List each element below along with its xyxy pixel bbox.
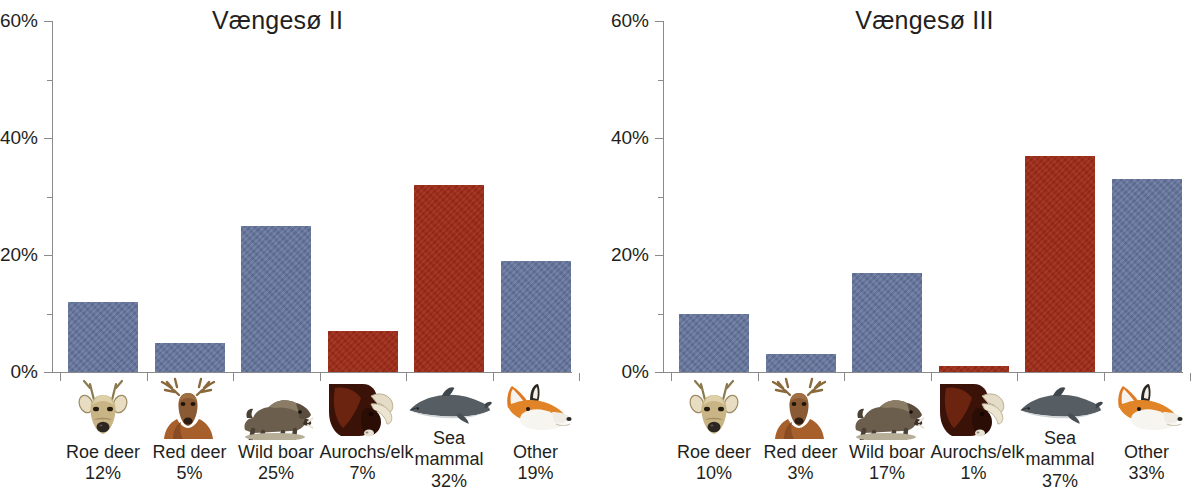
category-value: 3% — [758, 462, 844, 484]
bar-aurochs-elk — [939, 366, 1009, 372]
category-wild-boar: Wild boar17% — [844, 374, 930, 484]
bar-wild-boar — [241, 226, 311, 372]
category-red-deer: Red deer5% — [147, 374, 233, 484]
fox-icon — [1104, 374, 1190, 440]
category-label: Other — [1104, 442, 1190, 462]
category-sea-mammal: Sea mammal37% — [1017, 374, 1103, 492]
bar-roe-deer — [679, 314, 749, 373]
y-axis-tick-label: 0% — [622, 361, 649, 383]
category-value: 33% — [1104, 462, 1190, 484]
sea-mammal-icon — [406, 374, 492, 426]
category-roe-deer: Roe deer10% — [671, 374, 757, 484]
chart-panel-vaengeso-iii: Vængesø III 0%20%40%60% Roe deer10% — [601, 0, 1202, 500]
category-value: 5% — [147, 462, 233, 484]
category-label: Roe deer — [671, 442, 757, 462]
category-value: 7% — [320, 462, 406, 484]
bar-wild-boar — [852, 273, 922, 372]
y-axis-tick — [655, 255, 663, 256]
x-axis-tick — [579, 373, 580, 381]
category-aurochs-elk: Aurochs/elk7% — [320, 374, 406, 484]
y-axis-minor-tick — [47, 80, 52, 81]
bar-sea-mammal — [1025, 156, 1095, 372]
category-aurochs-elk: Aurochs/elk1% — [931, 374, 1017, 484]
category-label: Sea mammal — [1017, 428, 1103, 470]
category-wild-boar: Wild boar25% — [233, 374, 319, 484]
category-label: Other — [493, 442, 579, 462]
x-axis-line-left — [52, 372, 572, 373]
category-label: Sea mammal — [406, 428, 492, 470]
category-value: 32% — [406, 470, 492, 492]
y-axis-tick-label: 60% — [0, 10, 38, 32]
red-deer-icon — [758, 374, 844, 440]
bars-left — [68, 21, 570, 372]
roe-deer-icon — [60, 374, 146, 440]
bar-roe-deer — [68, 302, 138, 372]
figure: Vængesø II 0%20%40%60% Roe deer12% — [0, 0, 1202, 500]
y-axis-tick — [44, 138, 52, 139]
bar-red-deer — [155, 343, 225, 372]
y-axis-tick-label: 20% — [611, 244, 649, 266]
wild-boar-icon — [844, 374, 930, 440]
plot-area-left: 0%20%40%60% — [68, 21, 570, 372]
wild-boar-icon — [233, 374, 319, 440]
category-label: Aurochs/elk — [931, 442, 1017, 462]
bar-sea-mammal — [414, 185, 484, 372]
y-axis-minor-tick — [47, 314, 52, 315]
y-axis-tick — [655, 21, 663, 22]
y-axis-tick — [44, 255, 52, 256]
category-label: Red deer — [147, 442, 233, 462]
category-value: 37% — [1017, 470, 1103, 492]
y-axis-tick-label: 40% — [611, 127, 649, 149]
y-axis-tick-label: 40% — [0, 127, 38, 149]
category-value: 19% — [493, 462, 579, 484]
roe-deer-icon — [671, 374, 757, 440]
category-label: Wild boar — [844, 442, 930, 462]
y-axis-minor-tick — [658, 197, 663, 198]
y-axis-tick-label: 20% — [0, 244, 38, 266]
category-red-deer: Red deer3% — [758, 374, 844, 484]
category-label: Red deer — [758, 442, 844, 462]
y-axis-tick-label: 0% — [11, 361, 38, 383]
bars-right — [679, 21, 1181, 372]
bar-other — [1112, 179, 1182, 372]
bar-red-deer — [766, 354, 836, 372]
y-axis-minor-tick — [658, 314, 663, 315]
category-value: 12% — [60, 462, 146, 484]
category-value: 10% — [671, 462, 757, 484]
red-deer-icon — [147, 374, 233, 440]
category-label: Wild boar — [233, 442, 319, 462]
x-axis-tick — [1190, 373, 1191, 381]
category-other: Other33% — [1104, 374, 1190, 484]
y-axis-line-left — [52, 21, 53, 373]
plot-area-right: 0%20%40%60% — [679, 21, 1181, 372]
bar-aurochs-elk — [328, 331, 398, 372]
y-axis-tick — [44, 21, 52, 22]
category-labels-left: Roe deer12% Red deer5% Wild boar25% — [68, 374, 570, 500]
category-sea-mammal: Sea mammal32% — [406, 374, 492, 492]
category-value: 25% — [233, 462, 319, 484]
aurochs-icon — [320, 374, 406, 440]
aurochs-icon — [931, 374, 1017, 440]
category-label: Roe deer — [60, 442, 146, 462]
y-axis-line-right — [663, 21, 664, 373]
y-axis-tick — [655, 138, 663, 139]
sea-mammal-icon — [1017, 374, 1103, 426]
y-axis-minor-tick — [658, 80, 663, 81]
bar-other — [501, 261, 571, 372]
category-value: 1% — [931, 462, 1017, 484]
y-axis-tick — [655, 372, 663, 373]
fox-icon — [493, 374, 579, 440]
category-roe-deer: Roe deer12% — [60, 374, 146, 484]
y-axis-minor-tick — [47, 197, 52, 198]
y-axis-tick — [44, 372, 52, 373]
category-labels-right: Roe deer10% Red deer3% Wild boar17% — [679, 374, 1181, 500]
y-axis-tick-label: 60% — [611, 10, 649, 32]
category-value: 17% — [844, 462, 930, 484]
chart-panel-vaengeso-ii: Vængesø II 0%20%40%60% Roe deer12% — [0, 0, 601, 500]
x-axis-line-right — [663, 372, 1183, 373]
category-label: Aurochs/elk — [320, 442, 406, 462]
category-other: Other19% — [493, 374, 579, 484]
